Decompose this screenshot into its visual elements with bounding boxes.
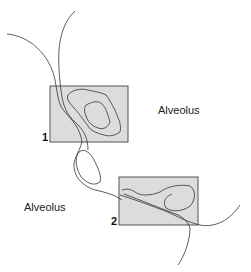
region-box-2: [119, 177, 198, 225]
diagram: Alveolus Alveolus 1 2: [0, 0, 251, 272]
box-2-number: 2: [111, 215, 117, 227]
box-1-number: 1: [42, 131, 48, 143]
alveolar-capillary-drawing: [0, 0, 251, 272]
alveolus-label-right: Alveolus: [158, 104, 200, 116]
alveolus-label-left: Alveolus: [24, 201, 66, 213]
